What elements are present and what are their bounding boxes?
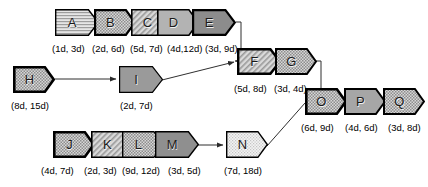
duration-label-q: (3d, 8d) (388, 123, 421, 133)
node-e[interactable]: E (192, 9, 236, 36)
duration-label-o: (6d, 9d) (301, 123, 334, 133)
duration-label-m: (3d, 5d) (168, 166, 201, 176)
duration-label-c: (5d, 7d) (130, 44, 163, 54)
node-label-q: Q (383, 88, 416, 115)
duration-label-i: (2d, 7d) (120, 101, 153, 111)
node-label-n: N (226, 131, 259, 158)
duration-label-g: (3d, 4d) (274, 84, 307, 94)
connector-n-to-o (267, 103, 305, 146)
node-q[interactable]: Q (383, 88, 425, 115)
node-b[interactable]: B (94, 9, 136, 36)
node-m[interactable]: M (155, 131, 199, 158)
node-label-g: G (275, 48, 308, 75)
node-label-m: M (155, 131, 189, 158)
duration-label-e: (3d, 9d) (205, 44, 238, 54)
duration-label-d: (4d,12d) (167, 44, 202, 54)
node-label-a: A (55, 9, 89, 36)
node-label-d: D (157, 9, 190, 36)
node-o[interactable]: O (305, 88, 347, 115)
duration-label-b: (2d, 6d) (92, 44, 125, 54)
node-j[interactable]: J (53, 131, 95, 158)
duration-label-p: (4d, 6d) (345, 123, 378, 133)
node-h[interactable]: H (13, 66, 55, 93)
duration-label-j: (4d, 7d) (41, 166, 74, 176)
duration-label-n: (7d, 18d) (224, 166, 262, 176)
node-label-b: B (94, 9, 127, 36)
node-label-e: E (192, 9, 226, 36)
node-p[interactable]: P (344, 88, 386, 115)
duration-label-a: (1d, 3d) (52, 44, 85, 54)
duration-label-h: (8d, 15d) (11, 101, 49, 111)
node-label-l: L (122, 131, 155, 158)
node-label-p: P (344, 88, 377, 115)
node-label-o: O (305, 88, 338, 115)
node-a[interactable]: A (55, 9, 99, 36)
node-label-h: H (13, 66, 46, 93)
duration-label-f: (5d, 8d) (234, 84, 267, 94)
node-g[interactable]: G (275, 48, 317, 75)
node-i[interactable]: I (119, 66, 163, 93)
node-label-f: F (237, 48, 271, 75)
node-label-j: J (53, 131, 86, 158)
node-label-i: I (119, 66, 153, 93)
duration-label-k: (2d, 3d) (84, 166, 117, 176)
diagram-canvas: ABCDEFGHIOPQJKLMN (1d, 3d)(2d, 6d)(5d, 7… (0, 0, 428, 187)
connector-i-to-f (162, 62, 234, 80)
node-n[interactable]: N (226, 131, 268, 158)
node-label-k: K (91, 131, 124, 158)
duration-label-l: (9d, 12d) (122, 166, 160, 176)
